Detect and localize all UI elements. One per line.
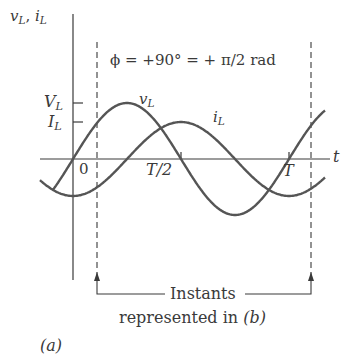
bracket-left — [97, 281, 165, 294]
label-IL: IL — [48, 112, 62, 133]
caption-line1: Instants — [170, 284, 236, 303]
y-axis-label: vL, iL — [10, 7, 47, 26]
phase-annotation: ϕ = +90° = + π/2 rad — [110, 51, 276, 69]
tick-label-zero: 0 — [79, 160, 89, 178]
tick-label-half-period: T/2 — [146, 160, 172, 179]
bracket-right — [245, 281, 311, 294]
panel-label: (a) — [40, 336, 62, 355]
x-axis-label: t — [333, 147, 339, 166]
arrow-up-right — [308, 272, 314, 281]
arrow-up-left — [94, 272, 100, 281]
caption-line2: represented in (b) — [119, 308, 266, 327]
label-VL: VL — [44, 92, 63, 113]
tick-label-period: T — [283, 161, 294, 180]
curve-label-vl: vL — [139, 90, 154, 109]
curve-label-il: iL — [213, 108, 225, 127]
